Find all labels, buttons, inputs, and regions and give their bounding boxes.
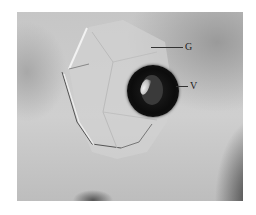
label-v-leader <box>176 86 188 87</box>
label-v: V <box>190 81 197 91</box>
inclusion-outline <box>17 12 243 201</box>
label-g: G <box>185 42 192 52</box>
micrograph <box>17 12 243 201</box>
label-g-leader <box>151 47 183 48</box>
vapour-bubble <box>127 65 179 117</box>
